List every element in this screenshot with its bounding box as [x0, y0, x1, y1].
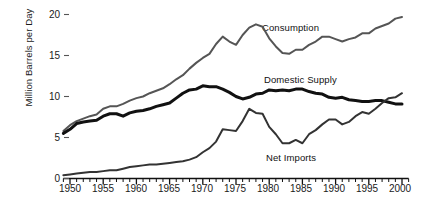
chart-container: Million Barrels per Day 0 5 10 15 20 195…: [0, 0, 429, 216]
plot-area: [0, 0, 429, 216]
series-lines: [63, 17, 402, 175]
series-line-domestic-supply: [63, 86, 402, 134]
